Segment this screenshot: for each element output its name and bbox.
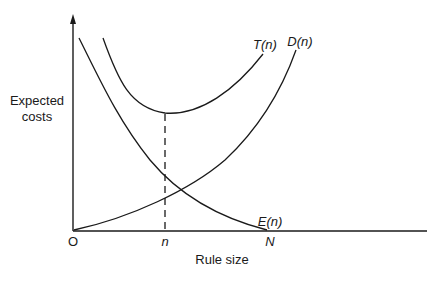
curve-t	[103, 38, 263, 113]
N-tick-label: N	[265, 234, 275, 249]
y-axis-label-line1: Expected	[10, 93, 64, 108]
curve-e	[79, 38, 267, 230]
cost-diagram: Expected costs Rule size O n N T(n) D(n)…	[0, 0, 438, 284]
t-curve-label: T(n)	[253, 37, 277, 52]
y-axis-label-line2: costs	[22, 109, 53, 124]
curve-d	[74, 50, 296, 230]
e-curve-label: E(n)	[258, 214, 283, 229]
d-curve-label: D(n)	[287, 34, 312, 49]
x-axis-label: Rule size	[195, 252, 248, 267]
y-axis-arrow-icon	[70, 14, 76, 24]
n-tick-label: n	[161, 234, 168, 249]
origin-label: O	[68, 234, 78, 249]
